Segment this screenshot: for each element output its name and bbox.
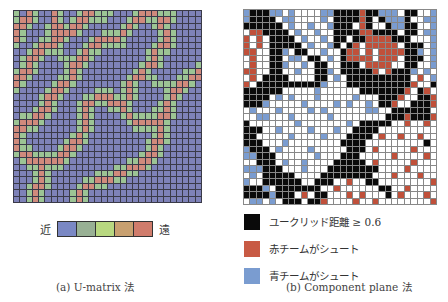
- grid-cell: [146, 24, 151, 29]
- grid-cell: [83, 145, 88, 150]
- grid-cell: [392, 69, 397, 75]
- grid-cell: [152, 30, 157, 35]
- grid-cell: [270, 186, 275, 192]
- grid-cell: [52, 133, 57, 138]
- grid-cell: [276, 121, 281, 127]
- grid-cell: [146, 88, 151, 93]
- grid-cell: [308, 140, 313, 146]
- grid-cell: [295, 147, 300, 153]
- grid-cell: [33, 190, 38, 195]
- grid-cell: [114, 190, 119, 195]
- grid-cell: [405, 147, 410, 153]
- grid-cell: [64, 56, 69, 61]
- grid-cell: [146, 165, 151, 170]
- grid-cell: [164, 107, 169, 112]
- grid-cell: [360, 10, 365, 16]
- grid-cell: [360, 56, 365, 62]
- grid-cell: [102, 165, 107, 170]
- grid-cell: [411, 49, 416, 55]
- grid-cell: [77, 75, 82, 80]
- grid-cell: [58, 30, 63, 35]
- grid-cell: [366, 179, 371, 185]
- grid-cell: [250, 101, 255, 107]
- grid-cell: [33, 101, 38, 106]
- grid-cell: [146, 171, 151, 176]
- grid-cell: [102, 24, 107, 29]
- grid-cell: [353, 69, 358, 75]
- grid-cell: [33, 165, 38, 170]
- grid-cell: [152, 11, 157, 16]
- grid-cell: [270, 69, 275, 75]
- grid-cell: [146, 11, 151, 16]
- grid-cell: [139, 126, 144, 131]
- grid-cell: [398, 56, 403, 62]
- grid-cell: [146, 75, 151, 80]
- grid-cell: [95, 158, 100, 163]
- grid-cell: [392, 75, 397, 81]
- grid-cell: [196, 11, 201, 16]
- grid-cell: [146, 126, 151, 131]
- grid-cell: [276, 101, 281, 107]
- grid-cell: [341, 56, 346, 62]
- grid-cell: [27, 101, 32, 106]
- grid-cell: [133, 17, 138, 22]
- grid-cell: [411, 160, 416, 166]
- grid-cell: [70, 145, 75, 150]
- grid-cell: [64, 30, 69, 35]
- grid-cell: [302, 95, 307, 101]
- grid-cell: [289, 62, 294, 68]
- grid-cell: [64, 120, 69, 125]
- grid-cell: [20, 24, 25, 29]
- grid-cell: [424, 30, 429, 36]
- grid-cell: [392, 147, 397, 153]
- grid-cell: [45, 62, 50, 67]
- grid-cell: [405, 179, 410, 185]
- grid-cell: [83, 101, 88, 106]
- grid-cell: [89, 24, 94, 29]
- grid-cell: [308, 179, 313, 185]
- grid-cell: [366, 153, 371, 159]
- grid-cell: [418, 49, 423, 55]
- grid-cell: [83, 177, 88, 182]
- grid-cell: [263, 10, 268, 16]
- grid-cell: [263, 153, 268, 159]
- grid-cell: [139, 152, 144, 157]
- grid-cell: [164, 43, 169, 48]
- grid-cell: [418, 101, 423, 107]
- grid-cell: [33, 11, 38, 16]
- grid-cell: [315, 88, 320, 94]
- grid-cell: [244, 36, 249, 42]
- grid-cell: [33, 69, 38, 74]
- grid-cell: [127, 43, 132, 48]
- grid-cell: [321, 179, 326, 185]
- grid-cell: [379, 69, 384, 75]
- grid-cell: [83, 126, 88, 131]
- grid-cell: [189, 133, 194, 138]
- grid-cell: [263, 43, 268, 49]
- grid-cell: [158, 113, 163, 118]
- grid-cell: [52, 49, 57, 54]
- grid-cell: [250, 62, 255, 68]
- grid-cell: [102, 126, 107, 131]
- grid-cell: [321, 82, 326, 88]
- grid-cell: [263, 121, 268, 127]
- grid-cell: [108, 62, 113, 67]
- grid-cell: [386, 95, 391, 101]
- grid-cell: [20, 81, 25, 86]
- grid-cell: [77, 113, 82, 118]
- grid-cell: [315, 23, 320, 29]
- grid-cell: [189, 62, 194, 67]
- grid-cell: [77, 43, 82, 48]
- grid-cell: [52, 190, 57, 195]
- grid-cell: [189, 120, 194, 125]
- grid-cell: [164, 177, 169, 182]
- grid-cell: [257, 179, 262, 185]
- grid-cell: [64, 11, 69, 16]
- grid-cell: [418, 108, 423, 114]
- grid-cell: [321, 173, 326, 179]
- grid-cell: [95, 49, 100, 54]
- grid-cell: [373, 17, 378, 23]
- grid-cell: [392, 82, 397, 88]
- grid-cell: [250, 17, 255, 23]
- grid-cell: [58, 190, 63, 195]
